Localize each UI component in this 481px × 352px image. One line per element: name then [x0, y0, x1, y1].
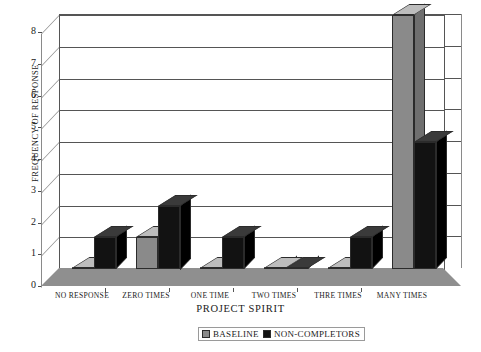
y-tick-label: 1 — [20, 247, 36, 258]
legend-item: BASELINE — [202, 329, 259, 339]
x-tick-mark — [361, 288, 362, 292]
gridline-left-wall — [42, 141, 60, 161]
bar-front-face — [222, 237, 244, 269]
gridline — [60, 110, 444, 111]
bar-baseline — [264, 268, 286, 269]
bar-noncompletors — [414, 141, 436, 269]
bar-front-face — [136, 237, 158, 269]
y-tick-label: 0 — [20, 279, 36, 290]
bar-baseline — [328, 268, 350, 269]
plot-floor-right — [443, 268, 461, 286]
x-category-label: ZERO TIMES — [110, 291, 182, 300]
bar-noncompletors — [222, 236, 244, 269]
x-category-label: TWO TIMES — [238, 291, 310, 300]
gridline-right-wall — [443, 46, 461, 47]
plot-floor-left — [41, 268, 59, 286]
gridline-left-wall — [42, 46, 60, 66]
legend-swatch-icon — [202, 330, 210, 338]
gridline — [60, 206, 444, 207]
gridline-left-wall — [42, 109, 60, 129]
x-tick-mark — [233, 288, 234, 292]
y-tick-label: 3 — [20, 184, 36, 195]
x-tick-mark — [105, 288, 106, 292]
gridline — [60, 15, 444, 16]
chart-figure: FREQUENCY OF RESPONSE 876543210 NO RESPO… — [0, 0, 481, 352]
gridline-left-wall — [42, 173, 60, 193]
plot-area — [41, 14, 461, 288]
bar-noncompletors — [94, 236, 116, 269]
bar-front-face — [392, 15, 414, 269]
bar-noncompletors — [350, 236, 372, 269]
gridline-right-wall — [443, 14, 461, 15]
gridline — [60, 174, 444, 175]
bar-baseline — [200, 268, 222, 269]
x-tick-mark — [297, 288, 298, 292]
x-tick-mark — [169, 288, 170, 292]
x-category-label: NO RESPONSE — [46, 291, 118, 300]
legend-swatch-icon — [263, 330, 271, 338]
x-category-label: MANY TIMES — [366, 291, 438, 300]
y-tick-label: 8 — [20, 25, 36, 36]
gridline-right-wall — [443, 78, 461, 79]
x-category-label: THRE TIMES — [302, 291, 374, 300]
bar-front-face — [350, 237, 372, 269]
gridline-left-wall — [42, 78, 60, 98]
x-category-label: ONE TIME — [174, 291, 246, 300]
plot-left-wall — [41, 14, 60, 288]
y-tick-label: 7 — [20, 57, 36, 68]
y-tick-label: 6 — [20, 89, 36, 100]
y-tick-label: 2 — [20, 216, 36, 227]
chart-legend: BASELINENON-COMPLETORS — [198, 327, 365, 341]
gridline-right-wall — [443, 109, 461, 110]
plot-floor-back — [59, 268, 443, 286]
legend-label: BASELINE — [213, 329, 259, 339]
gridline — [60, 79, 444, 80]
bar-front-face — [158, 206, 180, 270]
bar-noncompletors — [158, 205, 180, 270]
plot-floor — [41, 268, 461, 286]
bar-baseline — [392, 14, 414, 269]
bar-front-face — [94, 237, 116, 269]
x-axis-title: PROJECT SPIRIT — [0, 303, 481, 314]
y-tick-label: 4 — [20, 152, 36, 163]
legend-label: NON-COMPLETORS — [274, 329, 360, 339]
legend-item: NON-COMPLETORS — [263, 329, 360, 339]
gridline — [60, 142, 444, 143]
gridline — [60, 47, 444, 48]
gridline-left-wall — [42, 14, 60, 34]
bar-baseline — [136, 236, 158, 269]
bar-noncompletors — [286, 268, 308, 269]
bar-side-face — [436, 130, 447, 269]
bar-side-face — [180, 194, 191, 269]
bar-baseline — [72, 268, 94, 269]
bar-front-face — [414, 142, 436, 269]
y-tick-label: 5 — [20, 120, 36, 131]
gridline-left-wall — [42, 205, 60, 225]
gridline-left-wall — [42, 236, 60, 256]
